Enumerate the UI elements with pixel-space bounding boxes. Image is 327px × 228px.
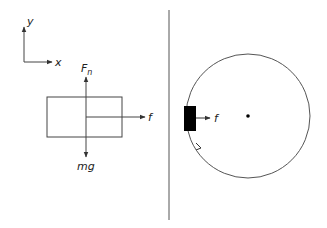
gravity-force-label: mg	[77, 160, 95, 173]
diagram-canvas: y x Fn mg f f	[0, 0, 327, 228]
friction-force-label: f	[148, 111, 154, 124]
coordinate-axes: y x	[24, 15, 62, 69]
x-axis-label: x	[54, 56, 62, 69]
free-body-block: Fn mg f	[47, 62, 154, 173]
motion-direction-arrowhead	[196, 143, 201, 150]
normal-force-label: Fn	[81, 62, 92, 77]
y-axis-label: y	[26, 15, 34, 28]
rotating-circle-diagram: f	[184, 54, 310, 178]
black-block	[184, 106, 196, 131]
block-friction-label: f	[214, 112, 220, 125]
center-dot	[246, 114, 250, 118]
